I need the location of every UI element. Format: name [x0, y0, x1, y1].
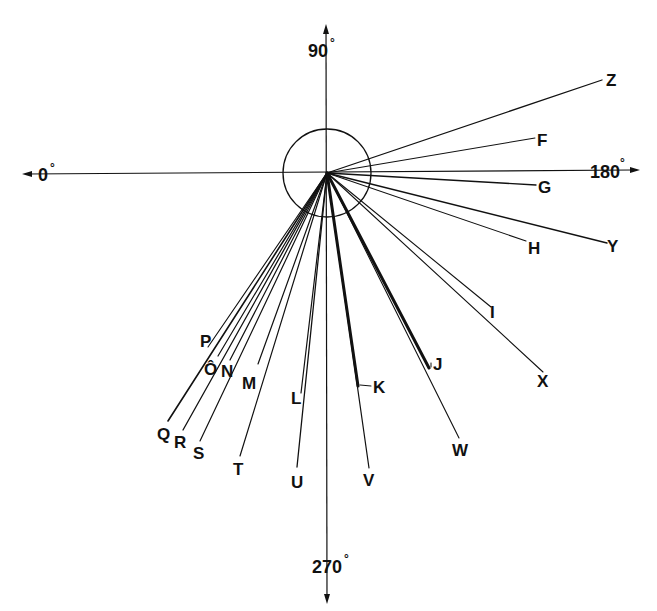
axis-label-270: 270 [312, 557, 342, 577]
ray-u [297, 173, 327, 467]
degree-sign: ° [620, 156, 625, 170]
degree-sign: ° [50, 161, 55, 175]
ray-label-w: W [452, 441, 469, 460]
axis-arrowheads [22, 24, 640, 604]
axis-label-0: 0 [38, 165, 48, 185]
ray-label-y: Y [607, 237, 619, 256]
ray-label-k: K [373, 378, 386, 397]
ray-label-v: V [363, 471, 375, 490]
ray-label-s: S [193, 444, 204, 463]
ray-label-g: G [538, 178, 551, 197]
ray-label-j: J [433, 355, 442, 374]
axis-label-90: 90 [308, 41, 328, 61]
degree-sign: ° [330, 36, 335, 50]
arrow-left-icon [22, 171, 32, 177]
ray-label-u: U [291, 473, 303, 492]
arrow-down-icon [324, 594, 330, 604]
axis-labels: 0 ° 90 ° 180 ° 270 ° [38, 36, 625, 577]
degree-sign: ° [344, 552, 349, 566]
axis-label-180: 180 [590, 162, 620, 182]
ray-label-x: X [537, 372, 549, 391]
direction-diagram: ZFGHYIXWVULTMSNRÔQPJK 0 ° 90 ° 180 ° 270… [0, 0, 657, 611]
ray-label-f: F [537, 131, 547, 150]
ray-label-p: P [200, 332, 211, 351]
ray-label-z: Z [606, 71, 616, 90]
ray-s [200, 173, 327, 441]
ray-label-o: Ô [204, 360, 217, 379]
ray-label-i: I [490, 303, 495, 322]
pointer-arrow-icon [360, 385, 371, 386]
ray-f [327, 138, 535, 173]
ray-x [327, 173, 543, 372]
ray-labels: ZFGHYIXWVULTMSNRÔQPJK [157, 71, 619, 492]
arrow-up-icon [323, 24, 329, 34]
ray-label-t: T [233, 460, 244, 479]
ray-label-n: N [221, 362, 233, 381]
vertical-axis [326, 28, 327, 600]
ray-label-r: R [174, 433, 186, 452]
ray-z [327, 80, 602, 173]
ray-label-q: Q [157, 425, 170, 444]
ray-label-l: L [291, 389, 301, 408]
arrow-right-icon [630, 167, 640, 173]
ray-label-m: M [242, 374, 256, 393]
ray-label-h: H [528, 239, 540, 258]
axes [26, 28, 632, 600]
